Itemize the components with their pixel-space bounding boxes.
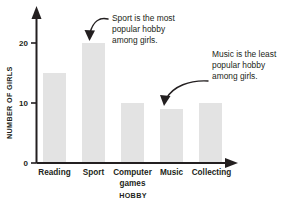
bar-music (160, 109, 183, 163)
bar-chart: 0 10 20 NUMBER OF GIRLS Reading Sport Co… (0, 0, 287, 206)
sport-annotation: Sport is the most popular hobby among gi… (85, 13, 176, 45)
music-annotation-line2: popular hobby (212, 60, 266, 70)
y-tick-label-20: 20 (19, 39, 28, 48)
bar-series (43, 43, 222, 163)
x-axis-title: HOBBY (119, 191, 147, 200)
y-tick-label-10: 10 (19, 99, 28, 108)
category-label-computer-games-line2: games (120, 179, 146, 188)
y-tick-label-0: 0 (24, 159, 29, 168)
bar-collecting (199, 103, 222, 163)
bar-reading (43, 73, 66, 163)
y-axis (31, 6, 42, 163)
bar-sport (82, 43, 105, 163)
category-label-sport: Sport (83, 168, 105, 177)
music-annotation-arrowhead-icon (160, 95, 171, 106)
sport-annotation-line3: among girls. (112, 35, 158, 45)
music-annotation: Music is the least popular hobby among g… (160, 49, 277, 106)
x-axis-category-labels: Reading Sport Computer games Music Colle… (38, 168, 231, 188)
category-label-reading: Reading (38, 168, 70, 177)
category-label-computer-games-line1: Computer (113, 168, 152, 177)
sport-annotation-arrowhead-icon (85, 30, 96, 41)
music-annotation-line3: among girls. (212, 71, 258, 81)
chart-canvas: 0 10 20 NUMBER OF GIRLS Reading Sport Co… (0, 0, 287, 206)
sport-annotation-line2: popular hobby (112, 24, 166, 34)
bar-computer-games (121, 103, 144, 163)
music-annotation-arrow-icon (166, 81, 208, 99)
sport-annotation-line1: Sport is the most (112, 13, 176, 23)
y-axis-title: NUMBER OF GIRLS (5, 66, 14, 139)
category-label-collecting: Collecting (192, 168, 232, 177)
category-label-music: Music (160, 168, 184, 177)
music-annotation-line1: Music is the least (212, 49, 277, 59)
